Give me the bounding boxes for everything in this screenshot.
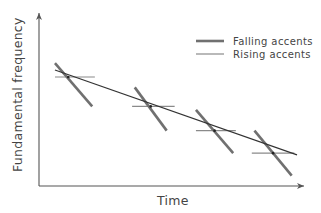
falling-accent-2	[135, 87, 167, 130]
accent-intersection-1	[67, 76, 70, 79]
declination-line	[55, 70, 297, 155]
legend-label-rising: Rising accents	[233, 49, 311, 60]
plot-area	[55, 63, 297, 175]
intonation-diagram: Fundamental frequency Time Falling accen…	[0, 0, 321, 213]
accent-intersection-4	[272, 152, 275, 155]
y-axis-label: Fundamental frequency	[10, 17, 25, 172]
falling-accent-1	[55, 63, 92, 106]
accent-intersection-2	[149, 105, 152, 108]
accent-intersection-3	[213, 129, 216, 132]
accent-group-2	[132, 87, 175, 130]
accent-group-1	[55, 63, 95, 106]
x-axis-label: Time	[156, 193, 189, 208]
legend-label-falling: Falling accents	[233, 36, 313, 47]
legend: Falling accents Rising accents	[196, 36, 313, 60]
